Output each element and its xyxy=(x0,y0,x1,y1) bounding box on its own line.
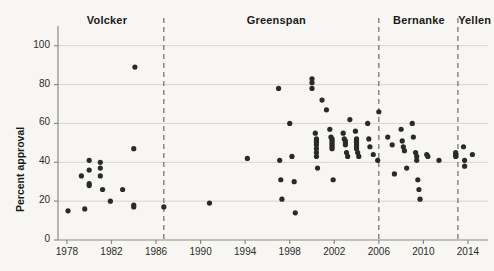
data-point xyxy=(436,158,441,163)
data-point xyxy=(410,121,415,126)
data-point xyxy=(279,197,284,202)
x-tick-label: 1990 xyxy=(181,246,221,257)
x-tick-label: 1986 xyxy=(136,246,176,257)
era-dividers xyxy=(164,18,458,240)
data-point xyxy=(462,164,467,169)
data-point xyxy=(331,177,336,182)
data-point xyxy=(315,166,320,171)
data-point xyxy=(277,158,282,163)
data-point xyxy=(313,131,318,136)
data-point xyxy=(289,154,294,159)
x-tick-label: 2010 xyxy=(403,246,443,257)
data-point xyxy=(414,158,419,163)
x-tick-label: 1994 xyxy=(225,246,265,257)
data-point xyxy=(131,204,136,209)
data-point xyxy=(319,98,324,103)
data-point xyxy=(314,154,319,159)
data-point xyxy=(329,146,334,151)
y-tick-label: 60 xyxy=(20,116,50,127)
data-point xyxy=(415,177,420,182)
data-point xyxy=(87,183,92,188)
x-tick-label: 1998 xyxy=(270,246,310,257)
data-point xyxy=(327,127,332,132)
data-point xyxy=(87,158,92,163)
data-point xyxy=(79,173,84,178)
data-point xyxy=(82,206,87,211)
y-axis-title: Percent approval xyxy=(14,127,26,212)
axes xyxy=(54,26,488,244)
data-point xyxy=(345,154,350,159)
data-point xyxy=(356,154,361,159)
data-point xyxy=(278,177,283,182)
data-point xyxy=(385,134,390,139)
data-point xyxy=(371,152,376,157)
data-point xyxy=(65,208,70,213)
data-point xyxy=(404,166,409,171)
data-point xyxy=(207,200,212,205)
data-point xyxy=(98,160,103,165)
data-point xyxy=(390,142,395,147)
era-label-yellen: Yellen xyxy=(435,14,494,26)
data-point xyxy=(87,167,92,172)
data-point xyxy=(293,210,298,215)
data-point xyxy=(367,144,372,149)
data-point xyxy=(416,187,421,192)
data-point xyxy=(365,121,370,126)
data-point xyxy=(98,166,103,171)
data-point xyxy=(287,121,292,126)
data-point xyxy=(400,138,405,143)
data-point xyxy=(100,187,105,192)
data-point xyxy=(402,148,407,153)
data-point xyxy=(108,199,113,204)
y-tick-label: 80 xyxy=(20,78,50,89)
y-tick-label: 0 xyxy=(20,233,50,244)
data-point xyxy=(131,146,136,151)
data-point xyxy=(343,142,348,147)
data-point xyxy=(120,187,125,192)
chart-canvas xyxy=(0,0,494,271)
data-point xyxy=(245,156,250,161)
data-point xyxy=(276,86,281,91)
data-point xyxy=(375,158,380,163)
data-point xyxy=(324,107,329,112)
era-label-volcker: Volcker xyxy=(67,14,147,26)
x-tick-label: 2002 xyxy=(314,246,354,257)
data-point xyxy=(461,144,466,149)
data-point xyxy=(309,86,314,91)
data-point xyxy=(376,109,381,114)
data-point xyxy=(341,131,346,136)
scatter-plot-figure: 0204060801001978198219861990199419982002… xyxy=(0,0,494,271)
x-tick-label: 1982 xyxy=(91,246,131,257)
gridlines xyxy=(58,46,488,201)
x-tick-label: 1978 xyxy=(47,246,87,257)
data-point xyxy=(417,197,422,202)
data-point xyxy=(392,171,397,176)
data-point xyxy=(132,64,137,69)
data-point xyxy=(399,127,404,132)
y-tick-label: 100 xyxy=(20,39,50,50)
data-points xyxy=(65,64,475,215)
data-point xyxy=(470,152,475,157)
data-point xyxy=(462,158,467,163)
x-tick-label: 2014 xyxy=(448,246,488,257)
data-point xyxy=(411,134,416,139)
data-point xyxy=(347,117,352,122)
era-label-greenspan: Greenspan xyxy=(236,14,316,26)
data-point xyxy=(453,154,458,159)
data-point xyxy=(161,204,166,209)
data-point xyxy=(98,173,103,178)
data-point xyxy=(292,179,297,184)
data-point xyxy=(425,154,430,159)
data-point xyxy=(366,136,371,141)
data-point xyxy=(309,80,314,85)
x-tick-label: 2006 xyxy=(359,246,399,257)
data-point xyxy=(353,129,358,134)
